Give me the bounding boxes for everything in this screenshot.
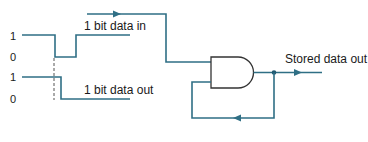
- output-level-low-label: 0: [10, 93, 16, 105]
- memory-cell-diagram: 1 0 1 bit data in 1 0 1 bit data out Sto…: [0, 0, 368, 142]
- stored-out-arrow-icon: [294, 69, 302, 76]
- input-level-high-label: 1: [10, 30, 16, 42]
- data-in-label: 1 bit data in: [84, 19, 146, 33]
- feedback-arrow-icon: [233, 115, 241, 122]
- data-in-arrow-icon: [113, 11, 121, 18]
- and-gate: [211, 57, 254, 88]
- data-out-label: 1 bit data out: [84, 83, 154, 97]
- output-level-high-label: 1: [10, 71, 16, 83]
- stored-data-out-label: Stored data out: [285, 52, 368, 66]
- input-waveform: [22, 35, 130, 57]
- input-level-low-label: 0: [10, 51, 16, 63]
